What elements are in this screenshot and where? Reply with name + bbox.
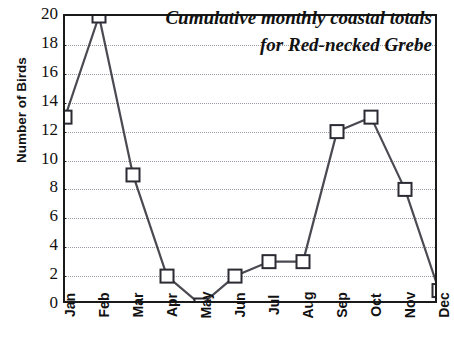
data-point-jul (263, 255, 276, 268)
data-point-jan (63, 111, 72, 124)
data-point-nov (399, 183, 412, 196)
data-point-mar (127, 168, 140, 181)
data-point-feb (93, 14, 106, 23)
data-point-jun (229, 270, 242, 283)
y-tick-label: 6 (18, 207, 58, 224)
chart-title: Cumulative monthly coastal totalsfor Red… (132, 4, 432, 58)
x-axis-tick-labels: JanFebMarAprMayJunJulAugSepOctNovDec (0, 303, 438, 349)
data-point-apr (161, 270, 174, 283)
y-tick-label: 14 (18, 92, 58, 109)
data-point-sep (331, 125, 344, 138)
data-point-oct (365, 111, 378, 124)
x-tick-label: Dec (437, 292, 451, 318)
data-series (65, 16, 437, 303)
y-tick-label: 4 (18, 236, 58, 253)
y-tick-label: 8 (18, 178, 58, 195)
data-point-aug (297, 255, 310, 268)
y-tick-label: 18 (18, 34, 58, 51)
y-tick-label: 2 (18, 265, 58, 282)
chart-title-line-2: for Red-necked Grebe (132, 31, 432, 58)
y-tick-label: 16 (18, 63, 58, 80)
series-line (65, 16, 437, 303)
y-axis-tick-labels: 20181614121086420 (14, 0, 58, 349)
y-tick-label: 12 (18, 121, 58, 138)
y-tick-label: 10 (18, 150, 58, 167)
x-tick-dec: Dec (414, 303, 454, 349)
chart-title-line-1: Cumulative monthly coastal totals (132, 4, 432, 31)
y-tick-label: 20 (18, 5, 58, 22)
